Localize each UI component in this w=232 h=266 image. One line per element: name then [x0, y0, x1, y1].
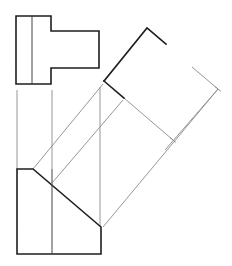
diagonal-projection-line	[103, 89, 218, 227]
top-view-outline	[16, 16, 99, 84]
projection-lines	[17, 84, 218, 227]
diagonal-projection-line	[33, 84, 103, 169]
auxiliary-view-edge	[104, 28, 166, 81]
auxiliary-view-edge	[104, 81, 124, 98]
construction-line	[165, 89, 218, 150]
top-view	[16, 16, 99, 84]
front-view	[17, 169, 101, 254]
projection-diagram	[0, 0, 232, 266]
front-view-outline	[17, 169, 101, 254]
diagonal-projection-line	[52, 100, 123, 183]
construction-lines	[124, 67, 221, 150]
auxiliary-view	[104, 28, 166, 98]
construction-line	[124, 98, 173, 140]
construction-line	[192, 67, 218, 89]
